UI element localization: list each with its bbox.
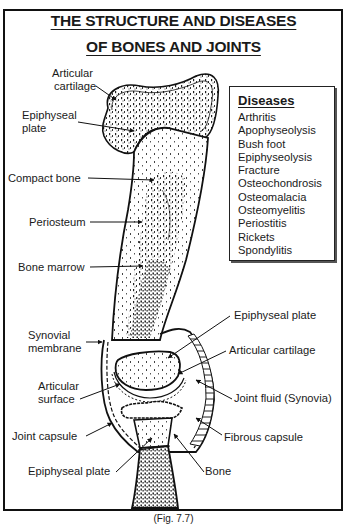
- label-line: cartilage: [52, 80, 96, 93]
- label-articular-cartilage-right: Articular cartilage: [229, 344, 315, 357]
- label-joint-capsule: Joint capsule: [12, 430, 77, 443]
- label-compact-bone: Compact bone: [8, 172, 81, 185]
- label-epiphyseal-plate-right: Epiphyseal plate: [234, 309, 316, 322]
- label-line: membrane: [28, 342, 81, 355]
- diseases-list: Arthritis Apophyseolysis Bush foot Epiph…: [238, 111, 322, 257]
- label-fibrous-capsule: Fibrous capsule: [224, 431, 303, 444]
- label-line: Epiphyseal: [22, 109, 77, 122]
- diseases-heading: Diseases: [238, 93, 294, 108]
- label-line: plate: [22, 122, 77, 135]
- disease-item: Periostitis: [238, 217, 322, 230]
- bone-shaft: [112, 128, 208, 340]
- label-line: Synovial: [28, 329, 81, 342]
- label-bone-marrow: Bone marrow: [18, 261, 85, 274]
- label-line: Articular: [38, 380, 79, 393]
- diseases-box: Diseases Arthritis Apophyseolysis Bush f…: [229, 86, 335, 261]
- label-joint-fluid: Joint fluid (Synovia): [234, 392, 332, 405]
- disease-item: Osteomyelitis: [238, 204, 322, 217]
- label-line: surface: [38, 393, 79, 406]
- label-bone: Bone: [205, 465, 231, 478]
- disease-item: Bush foot: [238, 138, 322, 151]
- disease-item: Rickets: [238, 231, 322, 244]
- disease-item: Fracture: [238, 164, 322, 177]
- figure-caption: (Fig. 7.7): [0, 513, 347, 524]
- label-articular-surface: Articular surface: [38, 380, 79, 406]
- label-articular-cartilage-top: Articular cartilage: [52, 67, 96, 93]
- label-periosteum: Periosteum: [29, 216, 86, 229]
- lower-bone: [121, 401, 182, 508]
- label-epiphyseal-plate-top: Epiphyseal plate: [22, 109, 77, 135]
- label-epiphyseal-plate-bottom: Epiphyseal plate: [28, 465, 110, 478]
- label-line: Articular: [52, 67, 96, 80]
- disease-item: Spondylitis: [238, 244, 322, 257]
- disease-item: Osteochondrosis: [238, 177, 322, 190]
- disease-item: Apophyseolysis: [238, 124, 322, 137]
- disease-item: Epiphyseolysis: [238, 151, 322, 164]
- disease-item: Osteomalacia: [238, 191, 322, 204]
- disease-item: Arthritis: [238, 111, 322, 124]
- label-synovial-membrane: Synovial membrane: [28, 329, 81, 355]
- condyle: [112, 351, 186, 402]
